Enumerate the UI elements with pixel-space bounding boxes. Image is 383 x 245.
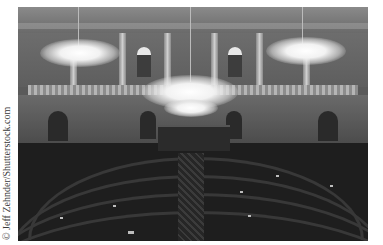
doorway bbox=[48, 111, 68, 141]
chandelier-right bbox=[266, 37, 346, 65]
desk-paper bbox=[276, 175, 279, 177]
speaker-rostrum bbox=[158, 125, 230, 151]
chandelier-center-lower bbox=[164, 99, 218, 117]
cornice bbox=[18, 23, 368, 29]
desk-paper bbox=[128, 231, 134, 234]
center-aisle bbox=[178, 153, 204, 241]
upper-window bbox=[228, 47, 242, 77]
photo-credit: © Jeff Zehnder/Shutterstock.com bbox=[1, 80, 12, 240]
desk-paper bbox=[113, 205, 116, 207]
doorway bbox=[140, 111, 156, 139]
chandelier-chain bbox=[190, 7, 191, 82]
desk-paper bbox=[248, 215, 251, 217]
chamber-photo bbox=[18, 7, 368, 241]
desk-paper bbox=[240, 191, 243, 193]
upper-window bbox=[137, 47, 151, 77]
ceiling bbox=[18, 7, 368, 35]
doorway bbox=[318, 111, 338, 141]
chandelier-left bbox=[40, 39, 120, 67]
desk-paper bbox=[60, 217, 63, 219]
desk-paper bbox=[330, 185, 333, 187]
